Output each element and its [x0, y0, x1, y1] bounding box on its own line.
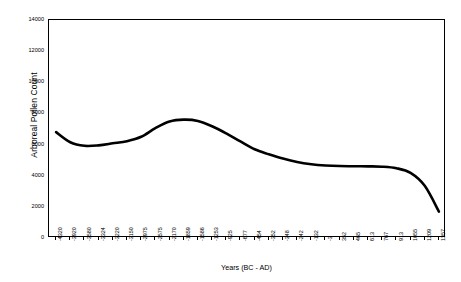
x-axis-tick-label: 913 — [398, 232, 404, 241]
x-axis-tick-label: 1055 — [412, 229, 418, 241]
x-axis-tick — [211, 237, 212, 240]
x-axis-tick-label: -1859 — [185, 227, 191, 241]
x-axis-tick-label: -4320 — [57, 227, 63, 241]
x-axis-tick-label: -3220 — [114, 227, 120, 241]
x-axis-tick-label: -2975 — [142, 227, 148, 241]
x-axis-tick-label: 767 — [383, 232, 389, 241]
x-axis-tick — [154, 237, 155, 240]
x-axis-tick — [395, 237, 396, 240]
x-axis-tick-label: -454 — [256, 230, 262, 241]
plot-area — [48, 19, 445, 237]
x-axis-tick — [339, 237, 340, 240]
x-axis-tick-label: -348 — [284, 230, 290, 241]
x-axis-tick — [296, 237, 297, 240]
y-axis-tick-label: 10000 — [18, 78, 44, 84]
x-axis: -4320-3920-3580-3324-3220-3150-2975-2575… — [48, 237, 445, 282]
x-axis-tick — [410, 237, 411, 240]
series-line-path — [56, 120, 439, 212]
x-axis-tick — [183, 237, 184, 240]
x-axis-tick-label: -925 — [227, 230, 233, 241]
x-axis-tick-label: 1209 — [426, 229, 432, 241]
x-axis-tick — [367, 237, 368, 240]
x-axis-tick-label: -2170 — [171, 227, 177, 241]
x-axis-tick — [140, 237, 141, 240]
x-axis-tick — [239, 237, 240, 240]
x-axis-tick-label: -352 — [270, 230, 276, 241]
pollen-count-line-series — [49, 20, 446, 238]
x-axis-tick-label: -1586 — [199, 227, 205, 241]
x-axis-tick-label: 465 — [355, 232, 361, 241]
x-axis-tick-label: -3920 — [71, 227, 77, 241]
y-axis-tick-label: 4000 — [18, 172, 44, 178]
y-axis-tick-label: 2000 — [18, 203, 44, 209]
x-axis-tick-label: -132 — [313, 230, 319, 241]
y-axis-tick-label: 8000 — [18, 109, 44, 115]
x-axis-tick — [197, 237, 198, 240]
x-axis-tick — [424, 237, 425, 240]
y-axis-tick-label: 0 — [18, 234, 44, 240]
x-axis-title: Years (BC - AD) — [48, 263, 445, 272]
y-axis-tick-label: 12000 — [18, 47, 44, 53]
x-axis-tick-label: -242 — [298, 230, 304, 241]
x-axis-tick — [126, 237, 127, 240]
arboreal-pollen-chart: Arboreal Pollen Count 020004000600080001… — [0, 0, 461, 282]
x-axis-tick-label: 352 — [341, 232, 347, 241]
x-axis-tick — [254, 237, 255, 240]
x-axis-tick-label: -3324 — [100, 227, 106, 241]
x-axis-tick — [324, 237, 325, 240]
x-axis-tick-label: 1357 — [440, 229, 446, 241]
x-axis-tick-label: -3580 — [86, 227, 92, 241]
x-axis-tick-label: -2575 — [157, 227, 163, 241]
x-axis-tick — [268, 237, 269, 240]
x-axis-tick — [55, 237, 56, 240]
y-axis-tick-label: 14000 — [18, 16, 44, 22]
x-axis-tick — [98, 237, 99, 240]
x-axis-tick-label: -3150 — [128, 227, 134, 241]
x-axis-tick — [282, 237, 283, 240]
y-axis-tick-labels: 02000400060008000100001200014000 — [18, 0, 44, 282]
x-axis-tick-label: 613 — [369, 232, 375, 241]
x-axis-tick — [112, 237, 113, 240]
x-axis-tick — [169, 237, 170, 240]
x-axis-tick — [353, 237, 354, 240]
x-axis-tick-label: -677 — [242, 230, 248, 241]
x-axis-tick — [438, 237, 439, 240]
x-axis-tick — [83, 237, 84, 240]
y-axis-tick-label: 6000 — [18, 141, 44, 147]
x-axis-tick — [310, 237, 311, 240]
x-axis-tick-label: -3 — [327, 236, 333, 241]
x-axis-tick-label: -1253 — [213, 227, 219, 241]
